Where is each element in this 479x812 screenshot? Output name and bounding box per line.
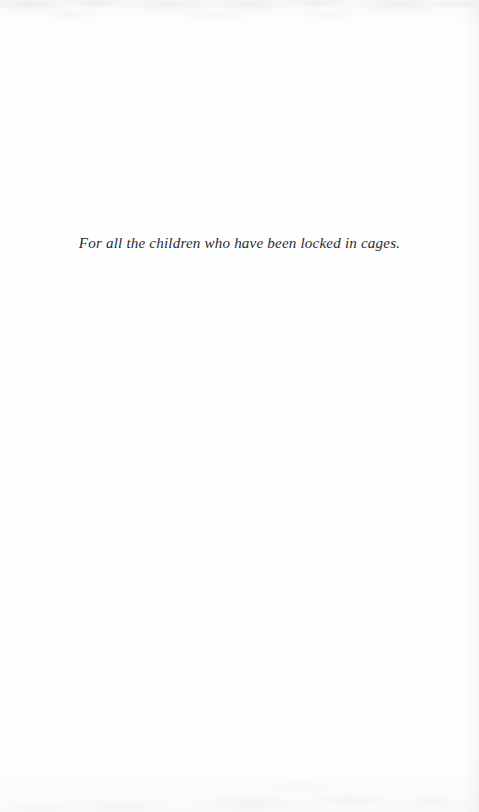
book-page: For all the children who have been locke…: [0, 0, 479, 812]
dedication-block: For all the children who have been locke…: [0, 233, 479, 253]
paper-background: [0, 0, 479, 812]
dedication-text: For all the children who have been locke…: [79, 233, 400, 253]
